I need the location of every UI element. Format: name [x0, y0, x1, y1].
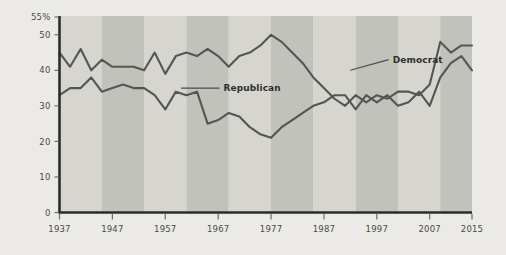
x-tick-label: 1967	[207, 224, 229, 234]
y-tick-label: 20	[39, 137, 50, 147]
x-tick-label: 1947	[101, 224, 123, 234]
x-tick-label: 2007	[418, 224, 440, 234]
x-tick-label: 1957	[154, 224, 176, 234]
background-bands	[60, 16, 473, 213]
era-band	[102, 16, 144, 213]
era-band	[398, 16, 440, 213]
x-tick-label: 1987	[313, 224, 335, 234]
chart-canvas: 55%5040302010019371947195719671977198719…	[0, 0, 506, 255]
y-tick-label: 40	[39, 65, 50, 75]
x-tick-label: 1977	[260, 224, 282, 234]
y-tick-label: 50	[39, 30, 50, 40]
x-tick-label: 1997	[366, 224, 388, 234]
era-band	[144, 16, 186, 213]
era-band	[356, 16, 398, 213]
x-tick-label: 1937	[48, 224, 70, 234]
era-band	[271, 16, 313, 213]
era-band	[186, 16, 228, 213]
y-tick-label: 30	[39, 101, 50, 111]
era-band	[313, 16, 355, 213]
y-tick-label: 55%	[31, 12, 51, 22]
era-band	[60, 16, 102, 213]
party-identification-line-chart: 55%5040302010019371947195719671977198719…	[0, 0, 506, 255]
series-label-democrat: Democrat	[393, 55, 444, 65]
y-tick-label: 0	[45, 208, 51, 218]
x-tick-label: 2015	[461, 224, 483, 234]
y-tick-label: 10	[39, 172, 50, 182]
series-label-republican: Republican	[223, 83, 280, 93]
